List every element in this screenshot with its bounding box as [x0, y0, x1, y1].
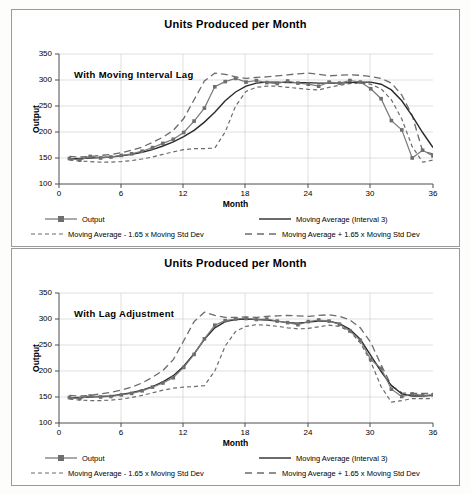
legend-swatch-upper-band-icon — [244, 468, 278, 478]
legend-item-lower-band-top: Moving Average - 1.65 x Moving Std Dev — [30, 229, 204, 239]
legend-swatch-lower-band-icon — [30, 229, 64, 239]
x-tick-30-bottom: 30 — [357, 428, 383, 437]
chart-annotation-bottom: With Lag Adjustment — [74, 308, 174, 319]
x-tick-0-bottom: 0 — [46, 428, 72, 437]
y-tick-100-top: 100 — [26, 179, 52, 188]
plot-area-bottom — [12, 249, 459, 485]
legend-swatch-lower-band-icon — [30, 468, 64, 478]
legend-label-output-bottom: Output — [82, 454, 105, 463]
series-lower-band-top — [69, 83, 433, 162]
legend-swatch-moving-average-icon — [258, 453, 292, 463]
y-axis-label-bottom: Output — [31, 328, 41, 388]
x-tick-6-top: 6 — [108, 189, 134, 198]
legend-label-moving-average-bottom: Moving Average (Interval 3) — [296, 454, 388, 463]
legend-item-lower-band-bottom: Moving Average - 1.65 x Moving Std Dev — [30, 468, 204, 478]
legend-label-lower-band-bottom: Moving Average - 1.65 x Moving Std Dev — [68, 469, 204, 478]
y-tick-250-bottom: 250 — [26, 340, 52, 349]
legend-swatch-upper-band-icon — [244, 229, 278, 239]
x-axis-label-bottom: Month — [12, 438, 459, 448]
chart-annotation-top: With Moving Interval Lag — [74, 69, 194, 80]
legend-swatch-output-icon — [44, 453, 78, 463]
y-tick-200-top: 200 — [26, 127, 52, 136]
chart-panel-top: Units Produced per Month — [11, 9, 460, 247]
series-output-markers-bottom — [68, 317, 435, 401]
legend-item-output-top: Output — [44, 214, 105, 224]
legend-item-moving-average-top: Moving Average (Interval 3) — [258, 214, 388, 224]
y-tick-150-bottom: 150 — [26, 392, 52, 401]
y-axis-label-top: Output — [31, 89, 41, 149]
y-tick-150-top: 150 — [26, 153, 52, 162]
x-tick-18-top: 18 — [232, 189, 258, 198]
x-tick-24-top: 24 — [295, 189, 321, 198]
x-tick-30-top: 30 — [357, 189, 383, 198]
series-moving-average-top — [69, 82, 433, 159]
legend-swatch-output-icon — [44, 214, 78, 224]
series-output-top — [69, 78, 433, 160]
legend-label-output-top: Output — [82, 215, 105, 224]
legend-label-upper-band-bottom: Moving Average + 1.65 x Moving Std Dev — [282, 469, 420, 478]
plot-area-top — [12, 10, 459, 246]
legend-top: Output Moving Average (Interval 3) Movin… — [30, 214, 450, 244]
legend-item-output-bottom: Output — [44, 453, 105, 463]
legend-bottom: Output Moving Average (Interval 3) Movin… — [30, 453, 450, 483]
plot-svg-top — [12, 10, 461, 248]
y-tick-250-top: 250 — [26, 101, 52, 110]
legend-item-moving-average-bottom: Moving Average (Interval 3) — [258, 453, 388, 463]
series-upper-band-bottom — [69, 312, 433, 396]
x-axis-label-top: Month — [12, 199, 459, 209]
y-tick-300-top: 300 — [26, 75, 52, 84]
chart-page: Units Produced per Month — [0, 0, 471, 494]
legend-label-upper-band-top: Moving Average + 1.65 x Moving Std Dev — [282, 230, 420, 239]
series-upper-band-top — [69, 73, 433, 157]
legend-label-lower-band-top: Moving Average - 1.65 x Moving Std Dev — [68, 230, 204, 239]
x-tick-0-top: 0 — [46, 189, 72, 198]
x-tick-6-bottom: 6 — [108, 428, 134, 437]
y-tick-100-bottom: 100 — [26, 418, 52, 427]
x-tick-12-bottom: 12 — [170, 428, 196, 437]
x-tick-24-bottom: 24 — [295, 428, 321, 437]
chart-panel-bottom: Units Produced per Month — [11, 248, 460, 486]
plot-svg-bottom — [12, 249, 461, 487]
legend-swatch-moving-average-icon — [258, 214, 292, 224]
legend-item-upper-band-top: Moving Average + 1.65 x Moving Std Dev — [244, 229, 420, 239]
y-tick-350-bottom: 350 — [26, 288, 52, 297]
legend-label-moving-average-top: Moving Average (Interval 3) — [296, 215, 388, 224]
y-tick-300-bottom: 300 — [26, 314, 52, 323]
y-tick-350-top: 350 — [26, 49, 52, 58]
x-tick-36-bottom: 36 — [420, 428, 446, 437]
series-lower-band-bottom — [69, 325, 433, 403]
legend-item-upper-band-bottom: Moving Average + 1.65 x Moving Std Dev — [244, 468, 420, 478]
y-tick-200-bottom: 200 — [26, 366, 52, 375]
x-tick-36-top: 36 — [420, 189, 446, 198]
x-tick-12-top: 12 — [170, 189, 196, 198]
x-tick-18-bottom: 18 — [232, 428, 258, 437]
